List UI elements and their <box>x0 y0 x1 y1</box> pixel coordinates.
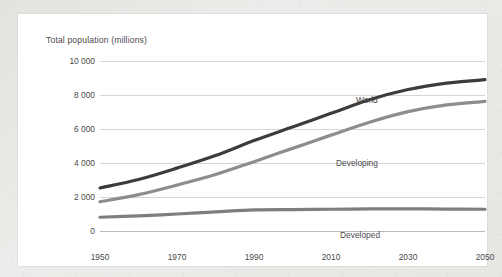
series-label-developed: Developed <box>340 230 380 240</box>
chart-title: Total population (millions) <box>46 35 147 45</box>
y-axis-tick-labels: 02 0004 0006 0008 00010 000 <box>42 61 95 231</box>
x-axis-tick-labels: 195019701990201020302050 <box>100 252 485 268</box>
x-tick-label: 2030 <box>399 252 418 262</box>
x-tick-label: 2010 <box>322 252 341 262</box>
series-label-world: World <box>356 95 378 105</box>
series-lines <box>100 61 485 231</box>
x-tick-label: 1950 <box>91 252 110 262</box>
series-line-world <box>100 80 485 188</box>
gridline-0 <box>100 231 485 232</box>
figure-root: Total population (millions) 02 0004 0006… <box>0 0 502 277</box>
y-tick-label: 0 <box>90 226 95 236</box>
y-tick-label: 4 000 <box>74 158 95 168</box>
x-tick-label: 1970 <box>168 252 187 262</box>
series-label-developing: Developing <box>336 158 378 168</box>
series-line-developing <box>100 101 485 201</box>
y-tick-label: 2 000 <box>74 192 95 202</box>
x-tick-label: 1990 <box>245 252 264 262</box>
x-tick-label: 2050 <box>476 252 495 262</box>
chart-panel: Total population (millions) 02 0004 0006… <box>18 14 487 266</box>
plot-area <box>100 61 485 231</box>
y-tick-label: 6 000 <box>74 124 95 134</box>
y-tick-label: 8 000 <box>74 90 95 100</box>
y-tick-label: 10 000 <box>69 56 95 66</box>
series-line-developed <box>100 209 485 217</box>
